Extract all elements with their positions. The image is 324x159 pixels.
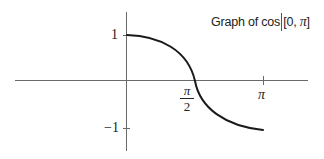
cosine-curve — [127, 35, 263, 130]
y-tick-label-minus-one: −1 — [104, 121, 119, 135]
fraction-denominator: 2 — [180, 100, 194, 113]
title-pi: π — [300, 14, 307, 29]
x-tick-label-pi-over-2: π 2 — [180, 84, 194, 113]
y-tick-label-one: 1 — [111, 28, 118, 42]
title-prefix: Graph of cos — [211, 15, 280, 29]
title-close: ] — [307, 15, 310, 29]
title-domain: [0, — [283, 15, 300, 29]
fraction-numerator: π — [180, 84, 194, 97]
graph-title: Graph of cos[0, π] — [211, 13, 310, 31]
x-tick-label-pi: π — [258, 88, 265, 102]
